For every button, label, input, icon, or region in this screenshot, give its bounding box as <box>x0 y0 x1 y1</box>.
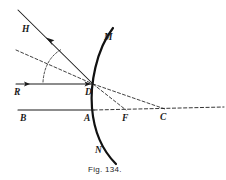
point-label-M: M <box>103 32 113 42</box>
point-label-R: R <box>13 87 20 97</box>
optics-figure-container: H M R D B A F C N Fig. 134. <box>0 0 226 180</box>
angle-of-incidence-arc <box>43 49 62 82</box>
construction-line-upper-left-to-D <box>16 50 93 84</box>
chord-line-DF <box>93 84 126 110</box>
point-label-B: B <box>19 113 26 123</box>
point-label-F: F <box>121 113 129 123</box>
figure-canvas: H M R D B A F C N Fig. 134. <box>0 0 226 180</box>
principal-axis-dashed-AFC <box>94 107 224 110</box>
normal-line-DC <box>93 84 165 109</box>
point-label-D: D <box>84 87 92 97</box>
point-label-C: C <box>160 112 167 122</box>
point-label-A: A <box>83 113 90 123</box>
point-label-N: N <box>94 145 103 155</box>
reflected-ray-DH <box>18 10 92 83</box>
point-label-H: H <box>21 24 30 34</box>
concave-mirror-arc <box>92 28 116 164</box>
figure-caption: Fig. 134. <box>88 165 122 174</box>
